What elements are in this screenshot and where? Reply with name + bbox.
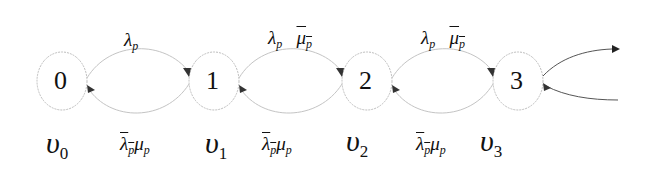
diagram-canvas [0,0,657,175]
edge-3-to-next [543,49,612,76]
edge-1-to-0 [88,84,189,113]
edge-next-to-3 [546,86,618,100]
rate-label-0-1: λp [124,30,138,52]
edge-1-to-2 [239,49,342,78]
node-label-1: 1 [206,68,219,94]
state-label-2: υ2 [346,126,368,160]
edge-3-to-2 [393,84,493,113]
state-label-1: υ1 [205,128,227,162]
arrowhead-icon [612,45,620,53]
state-label-0: υ0 [46,128,68,162]
node-label-0: 0 [54,68,67,94]
edge-2-to-1 [240,84,342,113]
edge-2-to-3 [392,49,493,78]
edge-0-to-1 [87,49,189,78]
rate-label-2-3: λp μp [421,28,465,50]
rate-label-1-2: λp μp [268,28,312,50]
state-label-3: υ3 [480,126,502,160]
node-label-3: 3 [510,68,523,94]
rate-label-3-2: λpμp [416,134,446,156]
node-label-2: 2 [359,68,372,94]
arrowhead-icon [543,83,551,91]
rate-label-1-0: λpμp [120,134,150,156]
rate-label-2-1: λpμp [262,134,292,156]
